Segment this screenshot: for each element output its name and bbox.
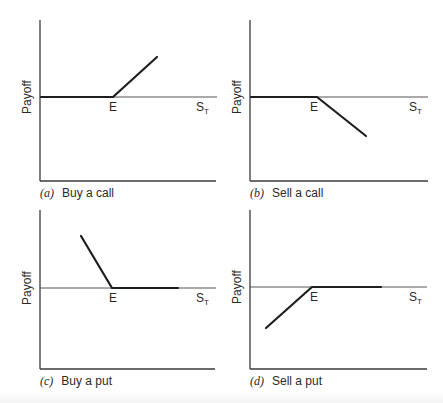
panel-caption: (c)Buy a put (40, 374, 113, 388)
payoff-line (41, 57, 157, 97)
panel-caption: (b)Sell a call (250, 186, 323, 200)
strike-label: E (310, 290, 318, 304)
strike-label: E (310, 100, 318, 114)
y-axis-label: Payoff (20, 79, 34, 113)
x-axis-label: ST (409, 100, 422, 116)
panel-buy-a-put: Payoff E ST (c)Buy a put (20, 210, 216, 388)
payoff-line (251, 97, 366, 136)
panel-buy-a-call: Payoff E ST (a)Buy a call (20, 20, 217, 200)
strike-label: E (109, 291, 117, 305)
payoff-diagrams-figure: Payoff E ST (a)Buy a call Payoff E ST (b… (0, 0, 443, 403)
panel-sell-a-put: Payoff E ST (d)Sell a put (230, 210, 427, 388)
x-axis-label: ST (409, 290, 422, 306)
panel-caption: (a)Buy a call (40, 186, 114, 200)
y-axis-label: Payoff (20, 270, 34, 304)
payoff-line (81, 236, 178, 288)
x-axis-label: ST (196, 291, 209, 307)
strike-label: E (109, 100, 117, 114)
payoff-line (266, 287, 381, 328)
panel-caption: (d)Sell a put (250, 374, 323, 388)
y-axis-label: Payoff (230, 269, 244, 303)
panel-sell-a-call: Payoff E ST (b)Sell a call (230, 20, 428, 200)
page-edge-shadow (0, 392, 443, 403)
x-axis-label: ST (196, 100, 209, 116)
y-axis-label: Payoff (230, 79, 244, 113)
